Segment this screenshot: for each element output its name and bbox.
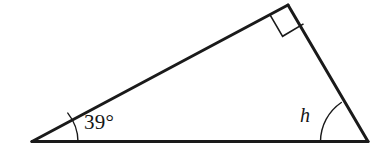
angle-label-right: h xyxy=(300,105,310,125)
angle-label-left: 39° xyxy=(84,112,114,133)
triangle-svg xyxy=(0,0,385,156)
triangle-figure: 39° h xyxy=(0,0,385,156)
triangle-interior xyxy=(32,5,368,142)
